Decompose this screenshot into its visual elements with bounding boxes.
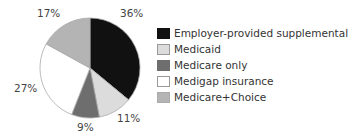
legend-swatch-icon [157, 44, 170, 55]
value-label-medigap: 27% [14, 82, 37, 94]
legend-item-medicare-only: Medicare only [157, 57, 348, 73]
legend: Employer-provided supplemental Medicaid … [157, 25, 348, 105]
legend-item-employer: Employer-provided supplemental [157, 25, 348, 41]
value-label-medicare-only: 9% [77, 121, 94, 133]
value-label-employer: 36% [120, 7, 143, 19]
legend-label: Employer-provided supplemental [174, 27, 348, 39]
pie-chart-figure: 36% 11% 9% 27% 17% Employer-provided sup… [0, 0, 358, 136]
value-label-medicaid: 11% [117, 112, 140, 124]
legend-label: Medigap insurance [174, 75, 274, 87]
legend-item-medigap: Medigap insurance [157, 73, 348, 89]
legend-swatch-icon [157, 76, 170, 87]
legend-swatch-icon [157, 60, 170, 71]
legend-item-medicare-choice: Medicare+Choice [157, 89, 348, 105]
legend-swatch-icon [157, 28, 170, 39]
legend-swatch-icon [157, 92, 170, 103]
legend-label: Medicare only [174, 59, 247, 71]
legend-item-medicaid: Medicaid [157, 41, 348, 57]
value-label-medicare-choice: 17% [37, 7, 60, 19]
legend-label: Medicaid [174, 43, 221, 55]
legend-label: Medicare+Choice [174, 91, 266, 103]
